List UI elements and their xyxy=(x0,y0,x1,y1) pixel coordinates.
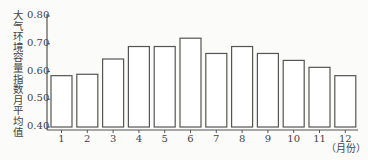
bar xyxy=(128,47,149,127)
bar xyxy=(232,47,253,127)
x-tick-label: 6 xyxy=(181,133,201,144)
x-axis-label: （月份） xyxy=(326,140,366,155)
x-tick-label: 3 xyxy=(103,133,123,144)
x-tick-label: 9 xyxy=(258,133,278,144)
bar xyxy=(283,60,304,127)
y-tick-label: 0.70 xyxy=(27,37,49,48)
x-tick-label: 1 xyxy=(52,133,72,144)
x-tick-label: 4 xyxy=(129,133,149,144)
bar xyxy=(206,53,227,127)
y-tick-label: 0.40 xyxy=(27,120,49,131)
bar xyxy=(103,59,124,127)
bar xyxy=(77,74,98,127)
y-tick-label: 0.80 xyxy=(27,9,49,20)
bar xyxy=(180,38,201,127)
bar xyxy=(154,47,175,127)
bar xyxy=(51,76,72,127)
x-tick-label: 10 xyxy=(284,133,304,144)
x-tick-label: 2 xyxy=(77,133,97,144)
y-tick-label: 0.60 xyxy=(27,65,49,76)
bar xyxy=(335,76,356,127)
x-tick-label: 8 xyxy=(232,133,252,144)
y-tick-label: 0.50 xyxy=(27,92,49,103)
bar xyxy=(257,53,278,127)
x-tick-label: 7 xyxy=(206,133,226,144)
bar-chart: 大气环境容量指数月平均值 0.400.500.600.700.801234567… xyxy=(0,0,368,160)
bar xyxy=(309,67,330,127)
x-tick-label: 5 xyxy=(155,133,175,144)
